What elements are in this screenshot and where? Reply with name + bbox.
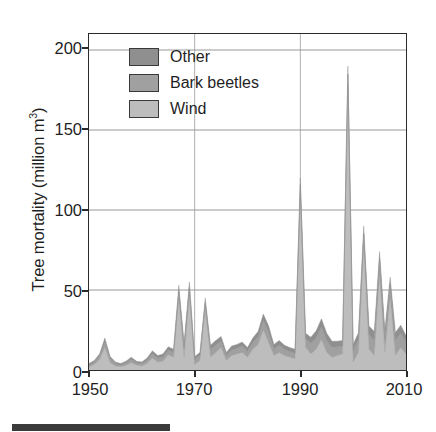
y-axis-tick-labels: 0 50 100 150 200 xyxy=(34,0,82,432)
y-tick-label-100: 100 xyxy=(38,202,82,219)
x-axis-tick-labels: 1950 1970 1990 2010 xyxy=(0,381,436,405)
y-tick-label-50: 50 xyxy=(38,283,82,300)
legend-label-wind: Wind xyxy=(170,101,206,117)
y-tick-label-0: 0 xyxy=(38,364,82,381)
x-tick-label-1950: 1950 xyxy=(55,381,125,398)
y-tick-label-150: 150 xyxy=(38,121,82,138)
legend-item-other: Other xyxy=(129,44,279,70)
legend-label-other: Other xyxy=(170,49,210,65)
x-tick-label-1990: 1990 xyxy=(265,381,335,398)
y-tick-label-200: 200 xyxy=(38,40,82,57)
legend-item-wind: Wind xyxy=(129,96,279,122)
legend-label-bark-beetles: Bark beetles xyxy=(170,75,259,91)
legend-swatch-other xyxy=(129,48,159,66)
caption-rule xyxy=(12,424,170,431)
x-tick-mark-1970 xyxy=(194,371,196,377)
legend-swatch-wind xyxy=(129,100,159,118)
tree-mortality-chart-figure: Tree mortality (million m3) 0 50 100 150… xyxy=(0,0,436,432)
legend-item-bark-beetles: Bark beetles xyxy=(129,70,279,96)
x-tick-label-2010: 2010 xyxy=(369,381,436,398)
x-tick-mark-1990 xyxy=(300,371,302,377)
area-series-wind xyxy=(89,85,406,370)
x-tick-mark-2010 xyxy=(406,371,408,377)
x-tick-label-1970: 1970 xyxy=(159,381,229,398)
legend: Other Bark beetles Wind xyxy=(129,44,279,122)
legend-swatch-bark-beetles xyxy=(129,74,159,92)
x-tick-mark-1950 xyxy=(88,371,90,377)
